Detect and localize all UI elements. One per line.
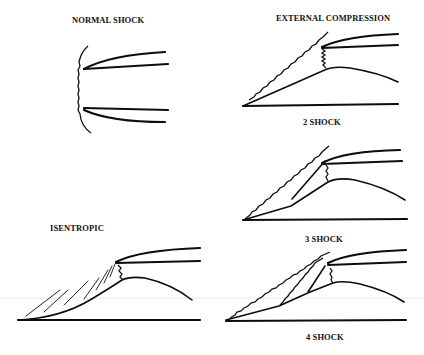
- terminal-normal-shock: [322, 49, 326, 68]
- cowl-outer: [116, 248, 200, 262]
- inlet-shock-diagram: NORMAL SHOCK EXTERNAL COMPRESSION 2 SHOC…: [0, 0, 424, 355]
- cowl-inner: [116, 261, 200, 263]
- compression-wave-1: [26, 290, 60, 316]
- cowl-outer: [328, 250, 406, 263]
- ground-plane: [226, 320, 406, 321]
- ground-plane: [243, 104, 398, 106]
- first-oblique-shock: [245, 146, 329, 219]
- third-oblique-shock: [308, 266, 325, 292]
- cowl-inner: [328, 262, 406, 265]
- lower-cowl-outer: [84, 110, 165, 122]
- cowl-inner: [322, 161, 402, 164]
- normal-shock-panel: [78, 46, 168, 133]
- upper-cowl-inner: [84, 64, 168, 69]
- compression-wave-3: [64, 281, 88, 305]
- ground-plane: [243, 219, 407, 220]
- terminal-normal-shock: [326, 165, 328, 181]
- terminal-normal-shock: [330, 268, 333, 283]
- first-oblique-shock: [230, 252, 330, 318]
- isentropic-panel: [18, 248, 200, 320]
- isentropic-compression-surface: [18, 277, 192, 320]
- terminal-normal-shock: [118, 265, 123, 280]
- second-oblique-shock: [292, 161, 325, 199]
- oblique-shock: [249, 32, 328, 100]
- diagram-drawing: [0, 0, 424, 355]
- normal-shock-wave: [78, 46, 91, 133]
- compression-ramp: [226, 282, 404, 320]
- four-shock-panel: [226, 250, 406, 321]
- compression-wave-7: [110, 264, 115, 277]
- cowl-inner: [322, 45, 398, 48]
- two-shock-panel: [243, 32, 398, 106]
- lower-cowl-inner: [84, 108, 168, 110]
- three-shock-panel: [243, 146, 407, 220]
